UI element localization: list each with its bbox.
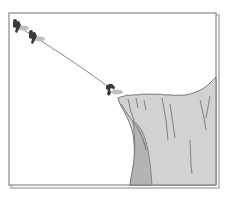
cliff-rope-illustration: [0, 0, 229, 200]
